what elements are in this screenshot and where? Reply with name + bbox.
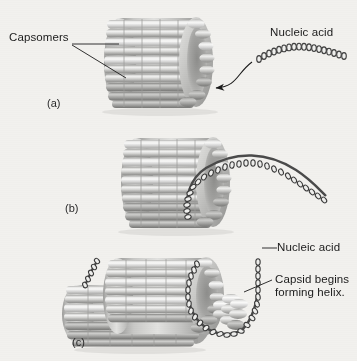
capsid-a bbox=[104, 17, 215, 108]
label-nucleic-acid-a: Nucleic acid bbox=[270, 26, 333, 40]
capsid-b bbox=[121, 137, 232, 228]
helical-virus-assembly-figure bbox=[0, 0, 357, 361]
label-capsid-helix-line1: Capsid begins bbox=[275, 273, 349, 287]
panel-letter-a: (a) bbox=[47, 97, 60, 109]
label-nucleic-acid-c: Nucleic acid bbox=[277, 241, 340, 255]
label-capsid-helix-line2: forming helix. bbox=[275, 286, 345, 300]
label-capsomers: Capsomers bbox=[9, 31, 69, 45]
panel-letter-c: (c) bbox=[72, 336, 85, 348]
panel-letter-b: (b) bbox=[65, 202, 78, 214]
